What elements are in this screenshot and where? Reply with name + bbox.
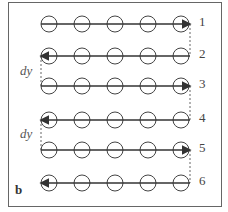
row-number: 1: [199, 14, 206, 29]
scan-path-diagram: 123456 dy dy b: [0, 0, 228, 212]
row-number: 6: [199, 173, 206, 188]
row-number: 2: [199, 46, 206, 61]
row-number: 3: [199, 76, 206, 91]
row-number: 4: [199, 110, 206, 125]
dy-label-lower: dy: [20, 126, 33, 141]
row-number: 5: [199, 140, 206, 155]
dy-label-upper: dy: [20, 63, 33, 78]
panel-label: b: [15, 182, 22, 197]
